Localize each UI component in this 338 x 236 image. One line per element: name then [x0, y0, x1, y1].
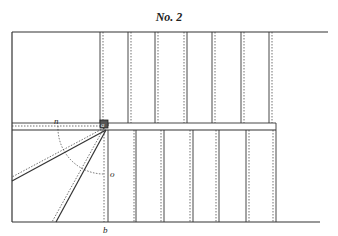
label-a: a — [101, 121, 105, 129]
stair-plan-diagram: n a o b — [0, 0, 338, 236]
upper-flight-treads — [100, 32, 272, 123]
label-n: n — [54, 116, 59, 126]
quarter-arc — [58, 126, 104, 174]
landing-band — [12, 123, 276, 130]
winder-lines — [12, 128, 106, 222]
lower-flight-treads — [104, 128, 276, 222]
label-o: o — [110, 169, 115, 179]
label-b: b — [103, 225, 108, 235]
